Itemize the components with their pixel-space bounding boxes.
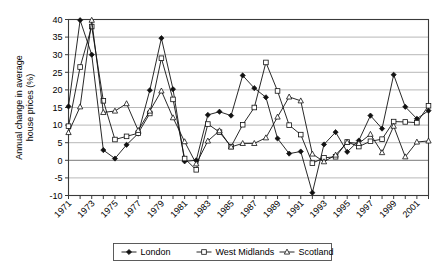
y-tick-label: 15 <box>52 103 62 113</box>
y-gridlines: -10-50510152025303540 <box>49 15 428 201</box>
x-tick-label: 1987 <box>238 198 259 219</box>
house-price-line-chart: -10-505101520253035401971197319751977197… <box>0 0 441 267</box>
data-point <box>159 36 164 41</box>
x-tick-label: 1995 <box>331 198 352 219</box>
data-point <box>275 89 280 94</box>
data-point <box>264 60 269 65</box>
data-point <box>275 114 280 119</box>
data-point <box>66 104 71 109</box>
data-point <box>89 24 94 29</box>
data-point <box>298 132 303 137</box>
y-axis-title-line: Annual change in average <box>14 55 24 160</box>
data-point <box>159 88 164 93</box>
chart-figure: -10-505101520253035401971197319751977197… <box>0 0 441 267</box>
data-point <box>66 124 71 129</box>
data-point <box>298 149 303 154</box>
legend-label: Scotland <box>299 247 334 257</box>
data-point <box>368 131 373 136</box>
y-tick-label: 20 <box>52 85 62 95</box>
data-point <box>170 87 175 92</box>
y-axis-title-line: house prices (%) <box>25 74 35 142</box>
y-tick-label: 0 <box>57 156 62 166</box>
data-point <box>252 105 257 110</box>
data-point <box>286 94 291 99</box>
data-point <box>240 122 245 127</box>
legend-marker <box>202 250 207 255</box>
x-tick-label: 1983 <box>192 198 213 219</box>
data-point <box>89 52 94 57</box>
x-tick-label: 2001 <box>401 198 422 219</box>
data-point <box>66 130 71 135</box>
series-scotland <box>66 17 431 166</box>
data-point <box>182 139 187 144</box>
data-point <box>147 88 152 93</box>
data-point <box>78 18 83 23</box>
legend-label: London <box>141 247 171 257</box>
legend-label: West Midlands <box>216 247 275 257</box>
x-tick-label: 1985 <box>215 198 236 219</box>
x-tick-label: 1999 <box>377 198 398 219</box>
data-point <box>310 190 315 195</box>
data-point <box>310 151 315 156</box>
y-axis-title: Annual change in averagehouse prices (%) <box>14 55 35 160</box>
x-tick-label: 1997 <box>354 198 375 219</box>
x-tick-label: 1993 <box>308 198 329 219</box>
data-point <box>182 156 187 161</box>
y-tick-label: 35 <box>52 32 62 42</box>
data-point <box>228 113 233 118</box>
data-point <box>403 120 408 125</box>
data-point <box>205 112 210 117</box>
data-point <box>368 139 373 144</box>
data-point <box>77 104 82 109</box>
x-tick-label: 1979 <box>145 198 166 219</box>
data-point <box>415 120 420 125</box>
y-tick-label: -5 <box>54 173 62 183</box>
y-tick-label: 30 <box>52 50 62 60</box>
data-point <box>171 97 176 102</box>
y-tick-label: 10 <box>52 120 62 130</box>
data-point <box>217 109 222 114</box>
data-point <box>194 168 199 173</box>
x-tick-label: 1977 <box>122 198 143 219</box>
x-tick-label: 1991 <box>284 198 305 219</box>
x-tick-label: 1971 <box>52 198 73 219</box>
y-tick-label: -10 <box>49 191 62 201</box>
data-point <box>124 134 129 139</box>
series-london <box>66 18 431 196</box>
data-point <box>380 137 385 142</box>
data-point <box>78 65 83 70</box>
data-point <box>426 138 431 143</box>
data-point <box>147 108 152 113</box>
data-point <box>287 123 292 128</box>
y-tick-label: 25 <box>52 68 62 78</box>
data-point <box>391 72 396 77</box>
data-point <box>206 122 211 127</box>
x-tick-label: 1989 <box>261 198 282 219</box>
data-point <box>170 115 175 120</box>
x-tick-label: 1975 <box>99 198 120 219</box>
y-tick-label: 5 <box>57 138 62 148</box>
data-point <box>159 56 164 61</box>
x-tick-labels: 1971197319751977197919811983198519871989… <box>52 198 422 219</box>
series-line <box>69 20 429 164</box>
y-tick-label: 40 <box>52 15 62 25</box>
data-point <box>113 137 118 142</box>
x-tick-label: 1973 <box>75 198 96 219</box>
series-west-midlands <box>66 24 431 172</box>
chart-legend: LondonWest MidlandsScotland <box>114 244 334 261</box>
series-line <box>69 27 429 170</box>
x-tick-label: 1981 <box>168 198 189 219</box>
data-point <box>310 161 315 166</box>
data-point <box>112 108 117 113</box>
data-point <box>263 135 268 140</box>
data-point <box>426 103 431 108</box>
data-point <box>124 101 129 106</box>
